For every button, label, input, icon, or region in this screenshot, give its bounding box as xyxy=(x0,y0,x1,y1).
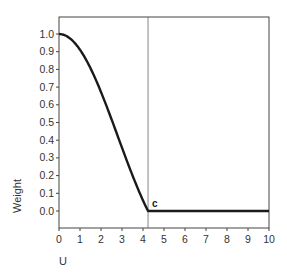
x-tick-label: 3 xyxy=(119,233,125,245)
x-tick-label: 10 xyxy=(263,233,275,245)
x-tick-label: 1 xyxy=(77,233,83,245)
y-tick-label: 0.6 xyxy=(39,98,54,110)
x-axis-label: U xyxy=(59,255,67,267)
x-tick-label: 2 xyxy=(98,233,104,245)
x-axis-ticks: 012345678910 xyxy=(56,228,275,245)
y-tick-label: 0.3 xyxy=(39,151,54,163)
y-tick-label: 0.2 xyxy=(39,169,54,181)
cutoff-label-c: c xyxy=(152,198,158,209)
y-tick-label: 0.1 xyxy=(39,187,54,199)
x-tick-label: 8 xyxy=(224,233,230,245)
y-axis-label: Weight xyxy=(11,179,23,213)
x-tick-label: 7 xyxy=(203,233,209,245)
x-tick-label: 6 xyxy=(182,233,188,245)
y-tick-label: 0.4 xyxy=(39,134,54,146)
y-tick-label: 0.0 xyxy=(39,205,54,217)
weight-curve xyxy=(59,34,269,211)
weight-function-chart: 0.00.10.20.30.40.50.60.70.80.91.0 012345… xyxy=(0,0,287,278)
x-tick-label: 0 xyxy=(56,233,62,245)
y-tick-label: 1.0 xyxy=(39,28,54,40)
y-tick-label: 0.9 xyxy=(39,45,54,57)
x-tick-label: 4 xyxy=(140,233,146,245)
y-tick-label: 0.8 xyxy=(39,63,54,75)
y-tick-label: 0.7 xyxy=(39,81,54,93)
x-tick-label: 9 xyxy=(245,233,251,245)
y-axis-ticks: 0.00.10.20.30.40.50.60.70.80.91.0 xyxy=(39,28,59,217)
plot-frame xyxy=(59,17,269,228)
x-tick-label: 5 xyxy=(161,233,167,245)
y-tick-label: 0.5 xyxy=(39,116,54,128)
